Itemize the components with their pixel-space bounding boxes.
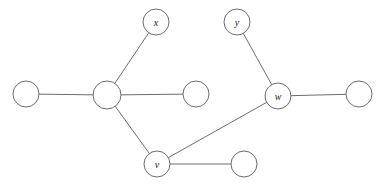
graph-node-unlabeled[interactable] — [13, 81, 39, 107]
graph-edge — [291, 94, 346, 95]
nodes-layer: xywv — [13, 9, 372, 177]
graph-canvas: xywv — [0, 0, 387, 184]
graph-edge — [115, 106, 149, 153]
graph-node-circle[interactable] — [93, 81, 121, 109]
graph-edge — [168, 102, 266, 157]
graph-node-y[interactable]: y — [224, 9, 250, 35]
graph-edge — [115, 33, 149, 84]
graph-node-circle[interactable] — [265, 83, 291, 109]
graph-edge — [121, 94, 183, 95]
graph-node-circle[interactable] — [346, 81, 372, 107]
graph-node-circle[interactable] — [224, 9, 250, 35]
graph-node-unlabeled[interactable] — [346, 81, 372, 107]
graph-node-w[interactable]: w — [265, 83, 291, 109]
graph-node-unlabeled[interactable] — [93, 81, 121, 109]
graph-node-circle[interactable] — [13, 81, 39, 107]
graph-figure: xywv — [0, 0, 387, 184]
graph-node-unlabeled[interactable] — [231, 151, 257, 177]
graph-node-circle[interactable] — [183, 81, 209, 107]
graph-node-circle[interactable] — [144, 151, 170, 177]
graph-edge — [243, 33, 271, 84]
graph-node-unlabeled[interactable] — [183, 81, 209, 107]
graph-node-v[interactable]: v — [144, 151, 170, 177]
graph-node-x[interactable]: x — [143, 9, 169, 35]
graph-node-circle[interactable] — [231, 151, 257, 177]
graph-edge — [39, 94, 93, 95]
graph-node-circle[interactable] — [143, 9, 169, 35]
